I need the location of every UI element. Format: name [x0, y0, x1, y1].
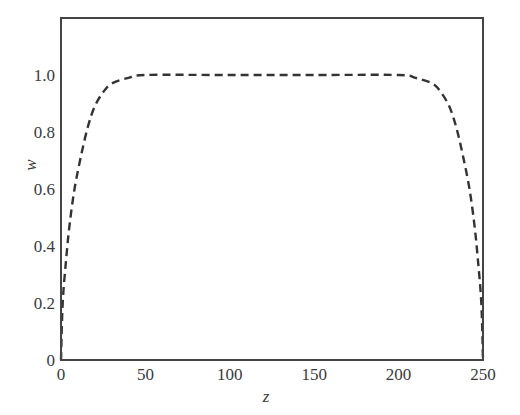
- y-tick-label: 0.4: [34, 237, 56, 256]
- x-axis-ticks: 050100150200250: [57, 365, 496, 384]
- x-tick-label: 150: [301, 365, 327, 384]
- y-tick-label: 0: [47, 351, 56, 370]
- line-chart: 050100150200250 00.20.40.60.81.0 z w: [0, 0, 520, 415]
- y-tick-label: 0.6: [34, 180, 55, 199]
- y-axis-ticks: 00.20.40.60.81.0: [34, 66, 56, 370]
- y-tick-label: 1.0: [34, 66, 55, 85]
- x-tick-label: 100: [217, 365, 243, 384]
- x-tick-label: 50: [137, 365, 154, 384]
- x-tick-label: 0: [57, 365, 66, 384]
- y-tick-label: 0.2: [34, 294, 55, 313]
- y-axis-label: w: [21, 159, 40, 171]
- x-tick-label: 200: [386, 365, 412, 384]
- x-axis-label: z: [262, 387, 270, 406]
- plot-frame: [61, 18, 483, 360]
- dashed-curve-w: [61, 75, 483, 360]
- x-tick-label: 250: [470, 365, 496, 384]
- y-tick-label: 0.8: [34, 123, 55, 142]
